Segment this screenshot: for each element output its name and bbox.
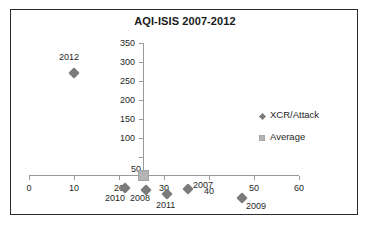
- y-tick-150: [139, 119, 143, 120]
- y-tick-200: [139, 100, 143, 101]
- x-tick-30: [164, 176, 165, 180]
- legend-item-xcr-attack[interactable]: XCR/Attack: [259, 110, 351, 132]
- x-tick-60: [299, 176, 300, 180]
- x-tick-10: [74, 176, 75, 180]
- y-tick-label-100-wrap: 100: [105, 134, 135, 143]
- x-tick-20: [119, 176, 120, 180]
- diamond-marker-icon: [259, 113, 266, 120]
- square-marker-icon: [259, 135, 265, 141]
- y-tick-50: [139, 157, 143, 158]
- x-tick-label-50: 50: [240, 184, 268, 193]
- y-tick-label-150-wrap: 150: [105, 115, 135, 124]
- x-tick-label-0: 0: [15, 184, 43, 193]
- scatter-plot-area: AQI-ISIS 2007-2012 350 300 250 200 150 1…: [11, 10, 359, 216]
- y-tick-300: [139, 62, 143, 63]
- legend-label-average: Average: [270, 132, 305, 142]
- legend-item-average[interactable]: Average: [259, 132, 351, 154]
- y-tick-label-100: 100: [105, 134, 135, 143]
- chart-frame: AQI-ISIS 2007-2012 350 300 250 200 150 1…: [10, 9, 358, 215]
- y-tick-100: [139, 138, 143, 139]
- x-tick-0: [29, 176, 30, 180]
- data-label-2007: 2007: [193, 181, 213, 190]
- y-tick-label-50: 50: [111, 165, 141, 174]
- y-tick-250: [139, 81, 143, 82]
- chart-legend: XCR/Attack Average: [259, 110, 351, 154]
- y-tick-label-150: 150: [105, 115, 135, 124]
- data-label-2008: 2008: [130, 194, 150, 203]
- data-point-average[interactable]: [138, 170, 149, 181]
- y-tick-label-350: 350: [105, 39, 135, 48]
- data-label-2012: 2012: [59, 53, 79, 62]
- x-tick-label-60: 60: [285, 184, 313, 193]
- y-tick-label-250-wrap: 250: [105, 77, 135, 86]
- data-point-2007[interactable]: [182, 183, 193, 194]
- y-tick-label-200-wrap: 200: [105, 96, 135, 105]
- y-tick-label-200: 200: [105, 96, 135, 105]
- legend-label-xcr-attack: XCR/Attack: [270, 110, 319, 120]
- chart-title: AQI-ISIS 2007-2012: [11, 15, 359, 27]
- y-tick-label-50-wrap: 50: [111, 165, 141, 174]
- y-axis-line: [143, 43, 144, 176]
- y-tick-label-250: 250: [105, 77, 135, 86]
- data-point-2012[interactable]: [68, 67, 79, 78]
- y-tick-label-300-wrap: 300: [105, 58, 135, 67]
- data-label-2011: 2011: [156, 201, 175, 210]
- y-tick-350: [139, 43, 143, 44]
- y-tick-label-300: 300: [105, 58, 135, 67]
- x-tick-label-10: 10: [60, 184, 88, 193]
- data-label-2010: 2010: [105, 194, 125, 203]
- data-label-2009: 2009: [246, 202, 266, 211]
- x-tick-50: [254, 176, 255, 180]
- y-tick-label-350-wrap: 350: [105, 39, 135, 48]
